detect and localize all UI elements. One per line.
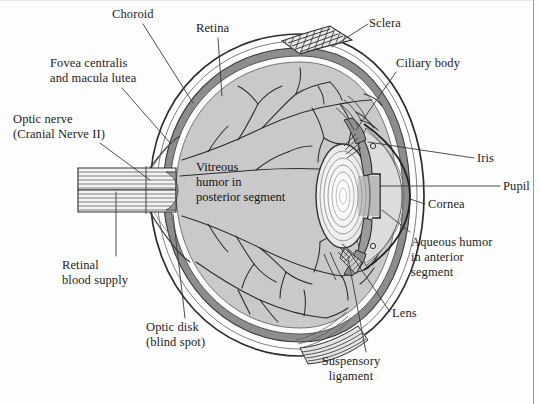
- label-retina: Retina: [196, 21, 229, 35]
- label-iris: Iris: [477, 151, 494, 165]
- label-optic-nerve-line1: Optic nerve: [13, 112, 73, 126]
- label-aqueous-humor-line3: segment: [411, 265, 453, 279]
- label-sclera: Sclera: [369, 16, 401, 30]
- label-aqueous-humor-line1: Aqueous humor: [411, 235, 493, 249]
- label-retinal-blood-supply-line2: blood supply: [62, 273, 128, 287]
- label-aqueous-humor-line2: in anterior: [411, 250, 464, 264]
- label-optic-nerve-line2: (Cranial Nerve II): [13, 127, 105, 141]
- label-optic-disk-line1: Optic disk: [146, 320, 199, 334]
- label-suspensory-ligament-line2: ligament: [306, 369, 396, 383]
- label-vitreous-humor-line2: humor in: [196, 175, 241, 190]
- label-fovea-centralis-line2: and macula lutea: [50, 71, 136, 85]
- label-retinal-blood-supply-line1: Retinal: [62, 258, 99, 272]
- label-optic-disk-line2: (blind spot): [146, 335, 205, 349]
- label-pupil: Pupil: [503, 179, 530, 193]
- label-choroid: Choroid: [112, 7, 154, 21]
- label-cornea: Cornea: [428, 197, 465, 211]
- label-vitreous-humor-line1: Vitreous: [196, 160, 238, 175]
- label-ciliary-body: Ciliary body: [396, 56, 460, 70]
- label-vitreous-humor-line3: posterior segment: [196, 190, 285, 205]
- label-lens: Lens: [392, 306, 417, 320]
- label-suspensory-ligament-line1: Suspensory: [306, 354, 396, 368]
- label-fovea-centralis-line1: Fovea centralis: [50, 56, 128, 70]
- pupil: [358, 174, 380, 218]
- eye-anatomy-figure: Choroid Retina Fovea centralis and macul…: [0, 0, 540, 404]
